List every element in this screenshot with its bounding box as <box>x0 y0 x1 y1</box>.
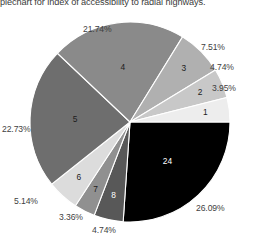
pie-slice-label-6: 6 <box>76 172 81 182</box>
pct-label-5: 22.73% <box>2 124 31 134</box>
pct-label-8: 4.74% <box>92 225 116 235</box>
pie-slice-label-5: 5 <box>73 114 78 124</box>
pie-slice-label-2: 2 <box>198 87 203 97</box>
pct-label-6: 5.14% <box>14 196 38 206</box>
pie-slice-label-1: 1 <box>203 107 208 117</box>
pct-label-4: 21.74% <box>83 24 112 34</box>
pie-slices-group <box>30 22 230 222</box>
pct-label-2: 4.74% <box>210 62 234 72</box>
pie-slice-label-4: 4 <box>121 62 126 72</box>
pct-label-7: 3.36% <box>59 212 83 222</box>
pie-chart-canvas: 2487654321 <box>0 0 254 236</box>
pie-slice-label-24: 24 <box>163 156 173 166</box>
pie-chart-figure: piechart for index of accessibility to r… <box>0 0 254 236</box>
pie-slice-label-3: 3 <box>182 63 187 73</box>
pct-label-3: 7.51% <box>201 42 225 52</box>
pie-slice-label-7: 7 <box>93 184 98 194</box>
pct-label-1: 3.95% <box>212 83 236 93</box>
pie-slice-label-8: 8 <box>111 190 116 200</box>
pct-label-24: 26.09% <box>196 203 225 213</box>
